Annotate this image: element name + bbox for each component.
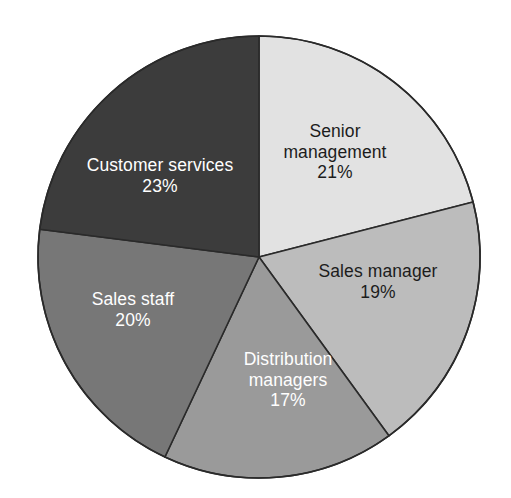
- pie-slice-customer-services: [40, 36, 259, 257]
- pie-chart: Seniormanagement21%Sales manager19%Distr…: [0, 0, 511, 498]
- pie-chart-svg: [0, 0, 511, 498]
